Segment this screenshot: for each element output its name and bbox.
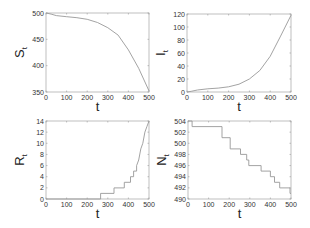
x-tick-label: 300 [244,94,256,101]
x-tick-label: 0 [44,94,48,101]
y-tick-label: 8 [40,151,44,158]
y-tick-label: 10 [36,140,44,147]
axes-frame [187,14,291,92]
y-tick-label: 500 [174,140,186,147]
x-tick-label: 100 [61,94,73,101]
y-tick-label: 4 [40,173,44,180]
y-axis-label: Rt [12,153,29,165]
y-tick-label: 500 [32,10,44,17]
series-line-N [188,121,291,193]
y-tick-label: 120 [173,11,185,18]
x-tick-label: 100 [61,201,73,208]
y-tick-label: 492 [174,184,186,191]
x-tick-label: 200 [81,201,93,208]
x-tick-label: 500 [143,201,155,208]
x-tick-label: 400 [123,94,135,101]
y-axis-label: It [153,49,170,56]
figure: 0100200300400500350400450500tSt010020030… [0,0,310,228]
y-tick-label: 100 [173,24,185,31]
y-axis-label: Nt [154,153,171,165]
x-tick-label: 200 [81,94,93,101]
x-axis-label: t [96,206,100,221]
subplot-I: 0100200300400500020406080100120tIt [153,11,297,115]
x-tick-label: 500 [143,94,155,101]
y-tick-label: 0 [40,196,44,203]
x-tick-label: 0 [186,201,190,208]
y-tick-label: 14 [36,118,44,125]
y-tick-label: 494 [174,173,186,180]
x-tick-label: 400 [264,94,276,101]
x-axis-label: t [238,206,242,221]
y-tick-label: 450 [32,36,44,43]
y-tick-label: 40 [177,63,185,70]
x-tick-label: 500 [285,201,297,208]
y-tick-label: 504 [174,118,186,125]
y-tick-label: 2 [40,184,44,191]
y-tick-label: 80 [177,37,185,44]
x-tick-label: 400 [265,201,277,208]
y-tick-label: 350 [32,89,44,96]
series-line-R [46,121,149,199]
y-axis-label: St [12,46,29,58]
y-tick-label: 496 [174,162,186,169]
y-tick-label: 0 [181,89,185,96]
series-line-S [46,13,149,91]
y-tick-label: 60 [177,50,185,57]
x-tick-label: 100 [202,94,214,101]
y-tick-label: 20 [177,76,185,83]
x-tick-label: 100 [203,201,215,208]
y-tick-label: 502 [174,129,186,136]
x-tick-label: 200 [223,201,235,208]
y-tick-label: 498 [174,151,186,158]
series-line-I [187,15,291,92]
x-tick-label: 300 [244,201,256,208]
x-axis-label: t [96,99,100,114]
axes-frame [46,13,149,92]
x-tick-label: 500 [285,94,297,101]
y-tick-label: 490 [174,196,186,203]
axes-frame [46,121,149,199]
x-axis-label: t [237,99,241,114]
x-tick-label: 300 [102,201,114,208]
y-tick-label: 6 [40,162,44,169]
x-tick-label: 200 [223,94,235,101]
subplot-N: 0100200300400500490492494496498500502504… [154,118,297,222]
x-tick-label: 300 [102,94,114,101]
x-tick-label: 400 [123,201,135,208]
axes-frame [188,121,291,199]
subplot-R: 010020030040050002468101214tRt [12,118,155,222]
y-tick-label: 12 [36,129,44,136]
x-tick-label: 0 [185,94,189,101]
x-tick-label: 0 [44,201,48,208]
subplot-S: 0100200300400500350400450500tSt [12,10,155,115]
y-tick-label: 400 [32,62,44,69]
